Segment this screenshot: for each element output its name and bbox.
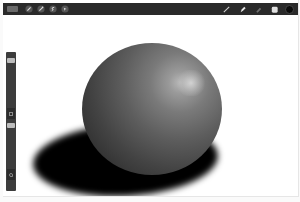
top-toolbar (3, 3, 298, 15)
opacity-slider[interactable] (7, 123, 15, 128)
smudge-button[interactable] (234, 3, 250, 15)
color-picker-button[interactable] (285, 5, 294, 14)
brush-icon (222, 5, 231, 14)
wrench-icon (25, 5, 33, 13)
layers-button[interactable] (266, 3, 282, 15)
modify-button[interactable] (7, 108, 15, 119)
magic-wand-icon (37, 5, 45, 13)
sphere-highlight (177, 70, 205, 96)
undo-button[interactable] (7, 169, 15, 180)
smudge-icon (238, 5, 247, 14)
left-sidebar (6, 52, 16, 191)
drawing-canvas[interactable] (17, 16, 298, 196)
layers-icon (270, 5, 279, 14)
brush-button[interactable] (218, 3, 234, 15)
eraser-icon (254, 5, 263, 14)
square-icon (9, 112, 13, 116)
actions-button[interactable] (23, 3, 35, 15)
arrow-cursor-icon (61, 5, 69, 13)
eraser-button[interactable] (250, 3, 266, 15)
brush-size-slider[interactable] (7, 58, 15, 63)
undo-icon (9, 173, 13, 177)
shaded-sphere (82, 43, 222, 175)
gallery-button[interactable] (7, 6, 18, 12)
app-window (3, 0, 299, 197)
adjustments-button[interactable] (35, 3, 47, 15)
transform-button[interactable] (59, 3, 71, 15)
selection-s-icon (49, 5, 57, 13)
selection-button[interactable] (47, 3, 59, 15)
